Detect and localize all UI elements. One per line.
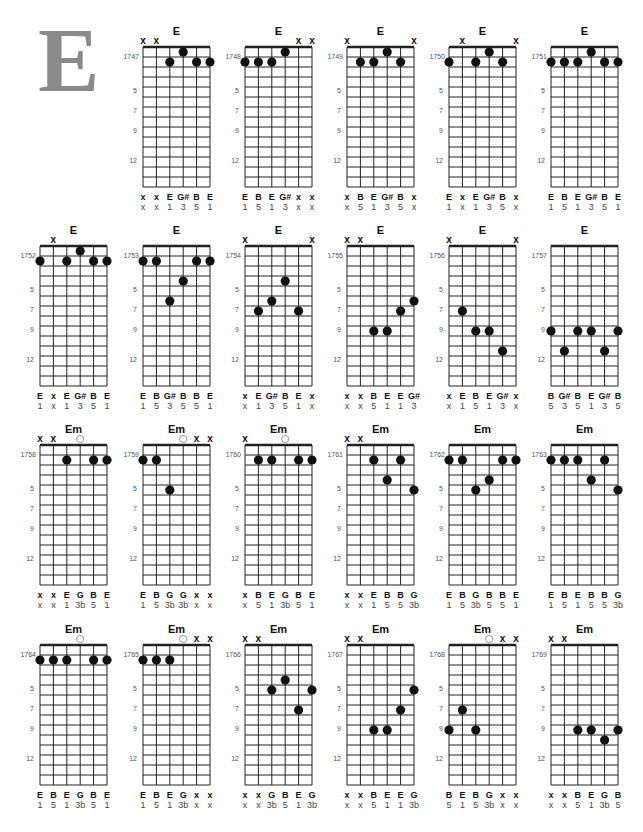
string-degree-label: 5 bbox=[46, 800, 60, 810]
string-note-label: B bbox=[598, 192, 612, 202]
fret-number-label: 9 bbox=[219, 725, 239, 732]
string-note-label: E bbox=[305, 590, 319, 600]
chord-diagram: E175057912xxE1xxE1G#3B5xx bbox=[449, 47, 549, 247]
finger-dot-icon bbox=[458, 455, 467, 464]
string-degree-label: 1 bbox=[136, 401, 150, 411]
string-note-label: G bbox=[407, 790, 421, 800]
string-note-label: E bbox=[380, 790, 394, 800]
fret-number-label: 7 bbox=[525, 107, 545, 114]
fretboard-grid bbox=[551, 47, 628, 189]
muted-string-x-icon: x bbox=[207, 433, 213, 444]
string-note-label: x bbox=[557, 790, 571, 800]
string-note-label: B bbox=[367, 790, 381, 800]
fret-number-label: 5 bbox=[14, 485, 34, 492]
fret-number-label: 5 bbox=[525, 485, 545, 492]
finger-dot-icon bbox=[152, 655, 161, 664]
fret-number-label: 7 bbox=[219, 705, 239, 712]
finger-dot-icon bbox=[294, 306, 303, 315]
muted-string-x-icon: x bbox=[154, 35, 160, 46]
string-note-label: E bbox=[611, 192, 625, 202]
string-note-label: E bbox=[584, 790, 598, 800]
fret-number-label: 5 bbox=[219, 87, 239, 94]
chord-diagram: Em176157912xxxxxxE1B5B5G3b bbox=[347, 445, 447, 645]
string-note-label: E bbox=[544, 192, 558, 202]
muted-string-x-icon: x bbox=[513, 35, 519, 46]
finger-dot-icon bbox=[600, 57, 609, 66]
string-degree-label: 1 bbox=[60, 800, 74, 810]
fret-number-label: 7 bbox=[423, 306, 443, 313]
string-degree-label: 1 bbox=[100, 800, 114, 810]
string-degree-label: 3b bbox=[482, 800, 496, 810]
string-degree-label: x bbox=[353, 401, 367, 411]
fret-number-label: 7 bbox=[14, 705, 34, 712]
finger-dot-icon bbox=[179, 276, 188, 285]
fret-number-label: 12 bbox=[525, 356, 545, 363]
string-note-label: B bbox=[557, 192, 571, 202]
fret-number-label: 9 bbox=[423, 326, 443, 333]
string-degree-label: 1 bbox=[394, 401, 408, 411]
finger-dot-icon bbox=[498, 57, 507, 66]
chord-id-label: 1768 bbox=[415, 651, 445, 658]
finger-dot-icon bbox=[179, 47, 188, 56]
chord-name: Em bbox=[551, 423, 618, 435]
chord-diagram: Em176357912E1B5E1B5B5G3b bbox=[551, 445, 643, 645]
chord-diagram: E174957912xxxxB5E1G#3B5xx bbox=[347, 47, 447, 247]
string-note-label: B bbox=[496, 590, 510, 600]
chord-diagram: Em176957912xxxxxxB5E1G3bB5 bbox=[551, 645, 643, 832]
muted-string-x-icon: x bbox=[309, 234, 315, 245]
string-degree-label: 5 bbox=[598, 202, 612, 212]
string-note-label: B bbox=[584, 590, 598, 600]
string-note-label: E bbox=[100, 590, 114, 600]
chord-diagram: Em175857912xxxxxxE1G3bB5E1 bbox=[40, 445, 140, 645]
fretboard-grid: x bbox=[245, 445, 322, 587]
string-note-label: x bbox=[353, 790, 367, 800]
string-degree-label: 3b bbox=[278, 600, 292, 610]
finger-dot-icon bbox=[587, 47, 596, 56]
string-degree-label: x bbox=[340, 800, 354, 810]
string-note-label: E bbox=[394, 790, 408, 800]
string-note-label: G bbox=[278, 590, 292, 600]
fret-number-label: 12 bbox=[117, 157, 137, 164]
chord-name: Em bbox=[449, 623, 516, 635]
string-degree-label: 5 bbox=[544, 401, 558, 411]
fret-number-label: 5 bbox=[321, 485, 341, 492]
finger-dot-icon bbox=[383, 326, 392, 335]
fret-number-label: 7 bbox=[423, 107, 443, 114]
chord-id-label: 1759 bbox=[109, 451, 139, 458]
string-degree-label: 1 bbox=[203, 202, 217, 212]
chord-id-label: 1752 bbox=[6, 252, 36, 259]
string-note-label: x bbox=[509, 192, 523, 202]
finger-dot-icon bbox=[267, 685, 276, 694]
fretboard-grid: xx bbox=[347, 645, 424, 787]
string-note-label: G# bbox=[598, 391, 612, 401]
finger-dot-icon bbox=[471, 725, 480, 734]
fret-number-label: 9 bbox=[525, 725, 545, 732]
string-note-label: E bbox=[509, 590, 523, 600]
chord-id-label: 1750 bbox=[415, 53, 445, 60]
string-degree-label: 3 bbox=[407, 401, 421, 411]
string-note-label: B bbox=[149, 391, 163, 401]
string-degree-label: 3 bbox=[557, 401, 571, 411]
fret-number-label: 9 bbox=[321, 326, 341, 333]
fret-number-label: 12 bbox=[14, 356, 34, 363]
chord-id-label: 1754 bbox=[211, 252, 241, 259]
muted-string-x-icon: x bbox=[194, 633, 200, 644]
string-note-label: E bbox=[482, 391, 496, 401]
string-note-label: B bbox=[190, 192, 204, 202]
string-degree-label: 5 bbox=[149, 401, 163, 411]
string-degree-label: 1 bbox=[455, 401, 469, 411]
string-note-label: B bbox=[469, 790, 483, 800]
string-degree-label: 1 bbox=[33, 800, 47, 810]
string-degree-label: 1 bbox=[544, 202, 558, 212]
string-note-label: G# bbox=[557, 391, 571, 401]
string-note-label: G# bbox=[584, 192, 598, 202]
string-note-label: E bbox=[100, 790, 114, 800]
fretboard-grid: xx bbox=[551, 645, 628, 787]
string-degree-label: x bbox=[203, 800, 217, 810]
string-degree-label: 1 bbox=[380, 401, 394, 411]
muted-string-x-icon: x bbox=[460, 35, 466, 46]
string-note-label: G bbox=[598, 790, 612, 800]
fret-number-label: 5 bbox=[525, 87, 545, 94]
chord-id-label: 1753 bbox=[109, 252, 139, 259]
fret-number-label: 9 bbox=[525, 127, 545, 134]
